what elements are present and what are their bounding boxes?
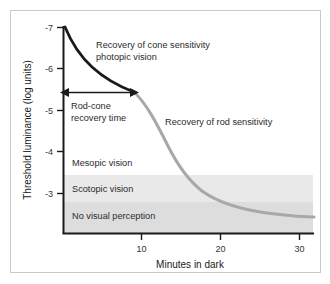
y-tick-label--4: -4 bbox=[45, 147, 53, 157]
figure-root: Mesopic vision Scotopic vision No visual… bbox=[0, 0, 330, 284]
cone-annotation-line1: Recovery of cone sensitivity bbox=[96, 40, 210, 50]
rod-cone-annotation-line2: recovery time bbox=[71, 113, 126, 123]
y-axis-title: Threshold luminance (log units) bbox=[22, 60, 33, 200]
y-tick-label--3: -3 bbox=[45, 189, 53, 199]
y-tick-label--6: -6 bbox=[45, 64, 53, 74]
x-tick-label-30: 30 bbox=[294, 244, 304, 254]
y-tick-label--5: -5 bbox=[45, 106, 53, 116]
y-ticks-group bbox=[57, 28, 63, 194]
band-label-mesopic: Mesopic vision bbox=[72, 158, 132, 168]
y-tick-label--7: -7 bbox=[45, 23, 53, 33]
x-axis-title: Minutes in dark bbox=[156, 259, 225, 270]
cone-annotation-line2: photopic vision bbox=[96, 52, 157, 62]
x-tick-label-20: 20 bbox=[215, 244, 225, 254]
x-tick-label-10: 10 bbox=[136, 244, 146, 254]
band-label-no-perception: No visual perception bbox=[72, 211, 155, 221]
dark-adaptation-chart: Mesopic vision Scotopic vision No visual… bbox=[0, 0, 330, 284]
rod-cone-annotation-line1: Rod-cone bbox=[71, 101, 111, 111]
rod-annotation: Recovery of rod sensitivity bbox=[165, 117, 273, 127]
band-label-scotopic: Scotopic vision bbox=[72, 184, 133, 194]
